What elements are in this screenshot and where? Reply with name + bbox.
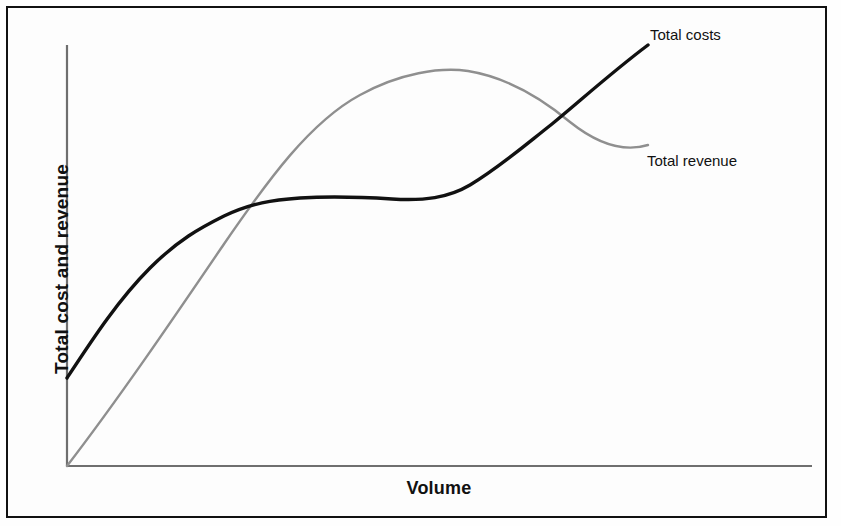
series-label-total-costs: Total costs (650, 26, 721, 43)
chart-figure: Total cost and revenue Volume Total cost… (0, 0, 841, 526)
chart-plot-area (0, 0, 841, 526)
total-costs-curve (67, 45, 648, 378)
series-label-total-revenue: Total revenue (647, 152, 737, 169)
y-axis-title: Total cost and revenue (51, 139, 73, 399)
total-revenue-curve (67, 70, 648, 466)
x-axis-title: Volume (66, 478, 812, 499)
